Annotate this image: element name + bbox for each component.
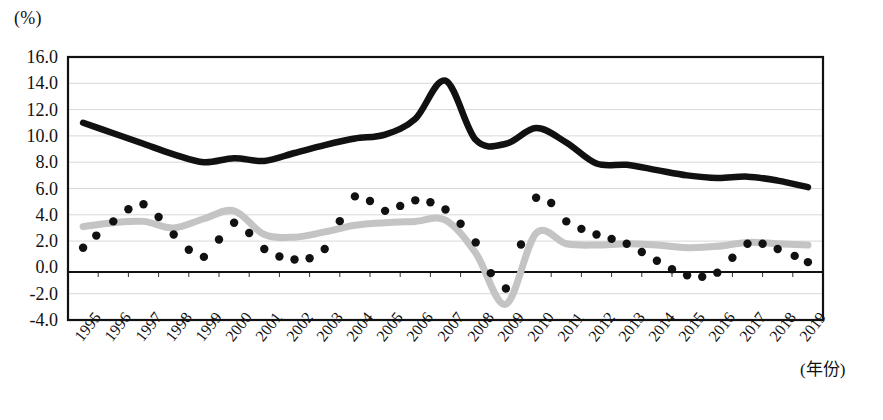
data-point-marker [260, 245, 268, 253]
data-point-marker [441, 205, 449, 213]
data-point-marker [607, 235, 615, 243]
data-point-marker [758, 240, 766, 248]
data-point-marker [592, 230, 600, 238]
series-gray-line [83, 210, 808, 304]
data-point-marker [502, 284, 510, 292]
data-point-marker [336, 217, 344, 225]
data-point-marker [321, 245, 329, 253]
data-point-marker [290, 255, 298, 263]
data-point-marker [396, 202, 404, 210]
series-dotted-markers [79, 192, 812, 292]
data-point-marker [170, 230, 178, 238]
data-point-marker [804, 258, 812, 266]
data-point-marker [562, 217, 570, 225]
data-point-marker [275, 252, 283, 260]
data-point-marker [456, 219, 464, 227]
data-point-marker [381, 207, 389, 215]
data-point-marker [790, 252, 798, 260]
data-point-marker [668, 265, 676, 273]
data-point-marker [487, 269, 495, 277]
chart-container: (%) (年份) 16.014.012.010.08.06.04.02.00.0… [0, 0, 883, 420]
data-point-marker [547, 199, 555, 207]
data-point-marker [577, 225, 585, 233]
data-point-marker [92, 231, 100, 239]
data-point-marker [472, 238, 480, 246]
data-point-marker [154, 213, 162, 221]
data-point-marker [774, 245, 782, 253]
data-point-marker [185, 246, 193, 254]
data-point-marker [305, 254, 313, 262]
data-point-marker [351, 192, 359, 200]
data-point-marker [366, 197, 374, 205]
plot-area [0, 0, 883, 420]
data-point-marker [517, 240, 525, 248]
gridlines [68, 83, 823, 320]
data-point-marker [698, 272, 706, 280]
data-point-marker [743, 240, 751, 248]
data-point-marker [230, 218, 238, 226]
data-point-marker [411, 196, 419, 204]
data-point-marker [215, 235, 223, 243]
data-point-marker [683, 271, 691, 279]
data-point-marker [245, 229, 253, 237]
data-point-marker [139, 200, 147, 208]
data-point-marker [653, 257, 661, 265]
data-point-marker [623, 240, 631, 248]
data-point-marker [426, 198, 434, 206]
data-point-marker [713, 268, 721, 276]
data-point-marker [124, 205, 132, 213]
data-point-marker [79, 243, 87, 251]
data-point-marker [200, 253, 208, 261]
data-point-marker [532, 194, 540, 202]
data-point-marker [109, 217, 117, 225]
data-point-marker [638, 248, 646, 256]
series-black-line [83, 80, 808, 187]
data-point-marker [728, 254, 736, 262]
